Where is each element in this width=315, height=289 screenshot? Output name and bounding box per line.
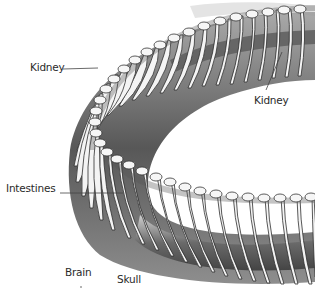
snake-skeleton-diagram: Kidney Kidney Intestines Brain Skull: [0, 0, 315, 289]
label-skull: Skull: [117, 273, 141, 285]
brain-marker: [80, 286, 82, 288]
label-intestines: Intestines: [6, 182, 55, 194]
label-brain: Brain: [65, 266, 92, 278]
label-kidney-right: Kidney: [254, 94, 289, 106]
kidney-left-leader: [63, 68, 98, 69]
label-kidney-left: Kidney: [30, 61, 65, 73]
snake-skeleton-illustration: [0, 0, 315, 289]
